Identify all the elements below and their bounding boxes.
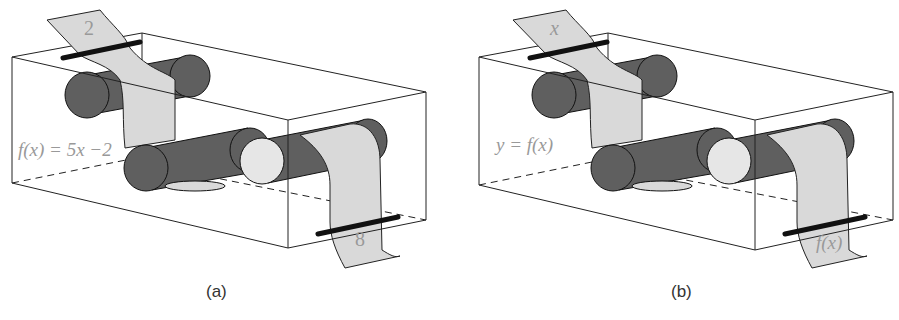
input-value: x	[550, 17, 559, 40]
function-machine-panel-a: 2 f(x) = 5x −2 8 (a)	[0, 0, 450, 320]
output-value: 8	[355, 228, 365, 251]
function-label: f(x) = 5x −2	[18, 139, 112, 161]
function-label: y = f(x)	[496, 134, 553, 156]
output-value: f(x)	[816, 232, 842, 254]
function-machine-diagram	[450, 0, 899, 320]
function-machine-panel-b: x y = f(x) f(x) (b)	[450, 0, 899, 320]
input-value: 2	[84, 17, 94, 40]
panel-caption: (a)	[206, 282, 227, 302]
panel-caption: (b)	[671, 282, 692, 302]
